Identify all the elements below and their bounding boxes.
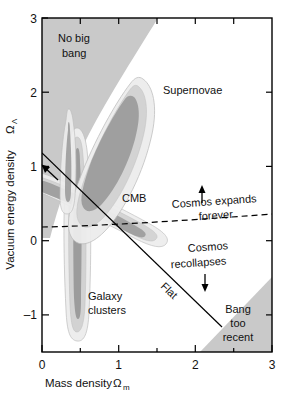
xtick-label-0: 0	[39, 358, 46, 372]
ytick-label-minus1: –1	[24, 308, 38, 322]
label-galaxy-line1: Galaxy	[88, 290, 123, 302]
plot-area	[26, 18, 272, 352]
label-no-big-bang-line2: bang	[62, 47, 86, 59]
ytick-label-3: 3	[30, 12, 37, 26]
x-axis-title-symbol: Ω	[113, 377, 122, 389]
ytick-label-2: 2	[30, 86, 37, 100]
xtick-label-2: 2	[192, 358, 199, 372]
y-axis-title-symbol: Ω	[4, 125, 16, 134]
ytick-label-0: 0	[30, 234, 37, 248]
label-bang-line2: too	[230, 317, 245, 329]
xtick-label-1: 1	[115, 358, 122, 372]
xtick-label-3: 3	[269, 358, 276, 372]
y-axis-title-text: Vacuum energy density	[4, 150, 16, 270]
y-axis-title-sub: Λ	[10, 118, 19, 124]
label-bang-line3: recent	[223, 331, 254, 343]
cosmology-omega-chart: 0 1 2 3 3 2 1 0 –1 Mass density Ω m Vacu…	[0, 0, 284, 393]
x-axis-title-sub: m	[123, 383, 130, 392]
label-galaxy-line2: clusters	[88, 304, 126, 316]
label-supernovae: Supernovae	[163, 84, 222, 96]
label-expands-line2: forever	[198, 208, 233, 222]
label-cmb: CMB	[122, 192, 146, 204]
label-no-big-bang-line1: No big	[58, 32, 90, 44]
ytick-label-1: 1	[30, 160, 37, 174]
x-axis-title-text: Mass density	[45, 377, 112, 389]
label-bang-line1: Bang	[225, 303, 251, 315]
